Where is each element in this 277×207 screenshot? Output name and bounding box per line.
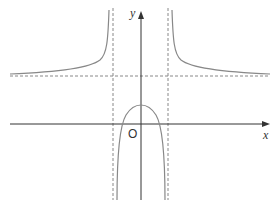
y-axis-arrow-icon <box>138 11 144 19</box>
origin-label: O <box>128 127 137 141</box>
function-graph: y x O <box>0 0 277 207</box>
curve-upper-right <box>172 10 270 74</box>
x-axis-label: x <box>262 128 269 142</box>
curve-upper-left <box>10 10 109 74</box>
y-axis-label: y <box>129 6 136 20</box>
x-axis-arrow-icon <box>262 121 270 127</box>
